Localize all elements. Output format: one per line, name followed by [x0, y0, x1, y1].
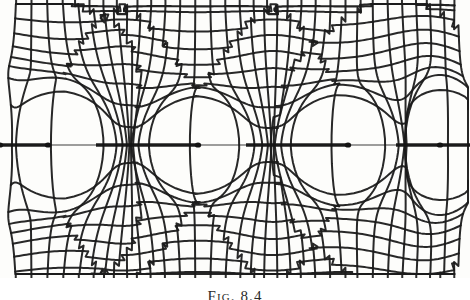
figure-plate — [0, 0, 470, 278]
figure-caption: Fig. 8.4 — [0, 283, 470, 300]
flow-net-diagram — [0, 0, 470, 278]
figure-root: Fig. 8.4 — [0, 0, 470, 300]
figure-caption-text: Fig. 8.4 — [208, 288, 263, 300]
